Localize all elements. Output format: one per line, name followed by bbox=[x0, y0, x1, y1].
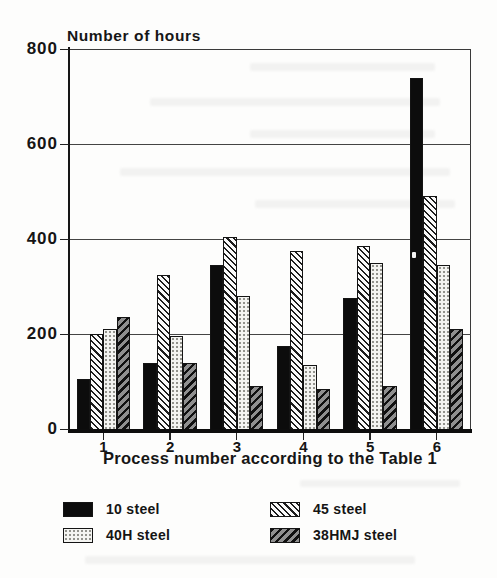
bar-group-3 bbox=[203, 49, 270, 429]
bar-38hmj-steel-process-5 bbox=[383, 386, 396, 429]
bar-45-steel-process-1 bbox=[90, 334, 103, 429]
y-axis-tick bbox=[60, 239, 69, 240]
y-axis-tick bbox=[60, 49, 69, 50]
bar-10-steel-process-4 bbox=[277, 346, 290, 429]
scan-speck bbox=[412, 252, 416, 258]
legend-item-40h-steel: 40H steel bbox=[63, 527, 270, 543]
bar-group-1 bbox=[70, 49, 137, 429]
scan-bleed-line bbox=[300, 480, 460, 487]
bar-40h-steel-process-2 bbox=[170, 336, 183, 429]
bar-40h-steel-process-5 bbox=[370, 263, 383, 429]
legend-swatch-10-steel bbox=[63, 502, 93, 517]
x-axis-line bbox=[68, 429, 472, 433]
legend-item-38hmj-steel: 38HMJ steel bbox=[270, 527, 397, 543]
bar-10-steel-process-5 bbox=[343, 298, 356, 429]
chart-title: Number of hours bbox=[67, 27, 201, 45]
x-axis-title: Process number according to the Table 1 bbox=[45, 449, 495, 468]
legend-item-10-steel: 10 steel bbox=[63, 501, 270, 517]
bar-45-steel-process-4 bbox=[290, 251, 303, 429]
bar-group-6 bbox=[403, 49, 470, 429]
y-axis-tick bbox=[60, 144, 69, 145]
bar-38hmj-steel-process-1 bbox=[117, 317, 130, 429]
y-axis-tick-label: 400 bbox=[0, 229, 58, 249]
legend-label: 40H steel bbox=[106, 527, 170, 543]
scanned-bar-chart-page: Number of hours 0200400600800 123456 Pro… bbox=[0, 0, 497, 578]
bar-group-4 bbox=[270, 49, 337, 429]
bar-group-2 bbox=[137, 49, 204, 429]
y-axis-tick-label: 0 bbox=[0, 419, 58, 439]
y-axis-tick-label: 800 bbox=[0, 39, 58, 59]
legend-swatch-45-steel bbox=[270, 502, 300, 517]
legend-swatch-40h-steel bbox=[63, 528, 93, 543]
y-axis-tick-label: 600 bbox=[0, 134, 58, 154]
bar-10-steel-process-1 bbox=[77, 379, 90, 429]
bar-10-steel-process-2 bbox=[143, 363, 156, 430]
plot-area bbox=[70, 49, 470, 429]
legend-swatch-38hmj-steel bbox=[270, 528, 300, 543]
bar-40h-steel-process-4 bbox=[303, 365, 316, 429]
y-axis-tick-label: 200 bbox=[0, 324, 58, 344]
bar-38hmj-steel-process-4 bbox=[317, 389, 330, 429]
scan-bleed-line bbox=[85, 556, 415, 564]
bar-group-5 bbox=[337, 49, 404, 429]
bar-40h-steel-process-3 bbox=[237, 296, 250, 429]
legend: 10 steel45 steel40H steel38HMJ steel bbox=[63, 501, 397, 543]
bar-38hmj-steel-process-2 bbox=[183, 363, 196, 430]
bar-45-steel-process-5 bbox=[357, 246, 370, 429]
y-axis-tick bbox=[60, 334, 69, 335]
bar-40h-steel-process-1 bbox=[103, 329, 116, 429]
bar-38hmj-steel-process-6 bbox=[450, 329, 463, 429]
legend-label: 10 steel bbox=[106, 501, 160, 517]
y-axis-tick bbox=[60, 429, 69, 430]
bar-10-steel-process-3 bbox=[210, 265, 223, 429]
bar-38hmj-steel-process-3 bbox=[250, 386, 263, 429]
bar-45-steel-process-6 bbox=[423, 196, 436, 429]
legend-item-45-steel: 45 steel bbox=[270, 501, 397, 517]
legend-label: 38HMJ steel bbox=[313, 527, 397, 543]
legend-label: 45 steel bbox=[313, 501, 367, 517]
bar-40h-steel-process-6 bbox=[437, 265, 450, 429]
bar-45-steel-process-3 bbox=[223, 237, 236, 429]
bar-45-steel-process-2 bbox=[157, 275, 170, 429]
